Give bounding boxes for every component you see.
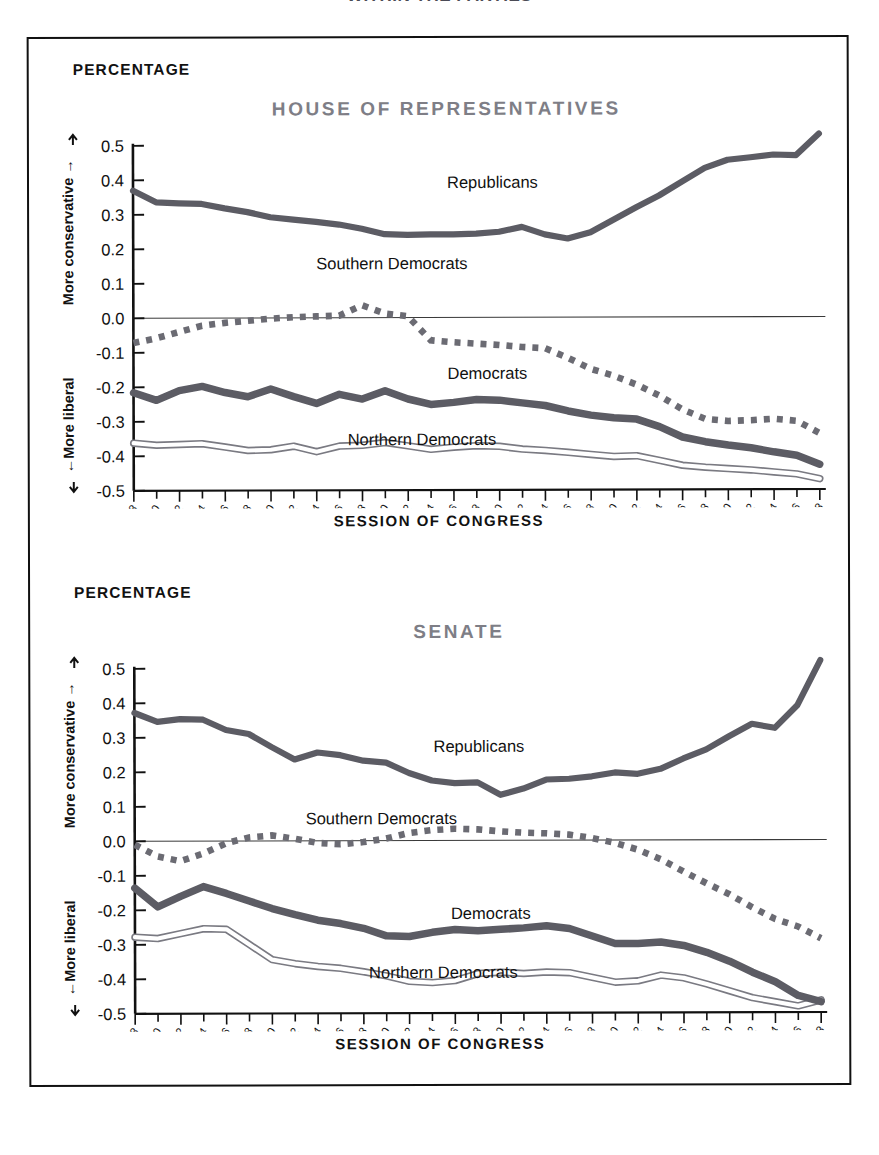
- x-tick-label: 1947–48: [102, 503, 139, 509]
- series-label-democrats: Democrats: [451, 904, 531, 922]
- y-tick-label: 0.4: [101, 171, 124, 189]
- y-tick-label: 0.5: [102, 660, 125, 678]
- series-democrats: [134, 385, 820, 466]
- series-southern-democrats: [135, 828, 821, 940]
- series-label-democrats: Democrats: [447, 364, 527, 382]
- y-tick-label: -0.3: [96, 413, 124, 431]
- y-tick-label: -0.3: [98, 936, 126, 954]
- series-republicans: [134, 660, 820, 796]
- y-tick-label: -0.4: [96, 447, 124, 465]
- y-tick-label: 0.2: [103, 763, 126, 781]
- y-tick-label: -0.1: [97, 867, 125, 885]
- x-axis-title-house: SESSION OF CONGRESS: [30, 511, 848, 530]
- x-tick-label: 1999–2000: [691, 1024, 736, 1032]
- y-tick-label: -0.1: [96, 344, 124, 362]
- y-tick-label: 0.2: [101, 240, 124, 258]
- y-tick-label: 0.4: [102, 694, 125, 712]
- x-axis-title-senate: SESSION OF CONGRESS: [31, 1034, 849, 1053]
- y-tick-label: -0.5: [98, 1005, 126, 1023]
- house-plot: 0.50.40.30.20.10.0-0.1-0.2-0.3-0.4-0.519…: [29, 37, 848, 509]
- senate-panel: PERCENTAGE SENATE 0.50.40.30.20.10.0-0.1…: [30, 560, 849, 1085]
- y-tick-label: -0.2: [96, 378, 124, 396]
- y-tick-label: -0.2: [97, 901, 125, 919]
- clipped-headline: WITHIN THE PARTIES: [0, 0, 879, 6]
- house-panel: PERCENTAGE HOUSE OF REPRESENTATIVES 0.50…: [29, 37, 848, 562]
- axis-direction-conservative: More conservative →: [60, 159, 76, 305]
- y-tick-label: 0.3: [101, 206, 124, 224]
- y-tick-label: 0.1: [103, 798, 126, 816]
- y-tick-label: 0.0: [103, 832, 126, 850]
- series-label-republicans: Republicans: [447, 173, 538, 191]
- figure-frame: PERCENTAGE HOUSE OF REPRESENTATIVES 0.50…: [27, 35, 852, 1087]
- axis-direction-liberal: ←More liberal: [62, 900, 78, 996]
- y-tick-label: 0.3: [103, 729, 126, 747]
- senate-plot: 0.50.40.30.20.10.0-0.1-0.2-0.3-0.4-0.519…: [30, 560, 849, 1032]
- y-tick-label: 0.0: [101, 309, 124, 327]
- axis-direction-conservative: More conservative →: [61, 682, 77, 828]
- series-label-northern-democrats: Northern Democrats: [369, 963, 518, 981]
- series-label-southern-democrats: Southern Democrats: [316, 254, 467, 272]
- y-tick-label: -0.4: [98, 970, 126, 988]
- chart-page: WITHIN THE PARTIES PERCENTAGE HOUSE OF R…: [0, 0, 879, 1155]
- axis-direction-liberal: ←More liberal: [61, 377, 77, 473]
- y-tick-label: 0.5: [101, 137, 124, 155]
- x-tick-label: 1947–48: [104, 1026, 141, 1032]
- x-tick-label: 1999–2000: [689, 501, 734, 509]
- y-tick-label: -0.5: [96, 482, 124, 500]
- series-label-southern-democrats: Southern Democrats: [306, 809, 457, 827]
- y-tick-label: 0.1: [101, 275, 124, 293]
- series-label-northern-democrats: Northern Democrats: [348, 430, 497, 448]
- series-label-republicans: Republicans: [433, 737, 524, 755]
